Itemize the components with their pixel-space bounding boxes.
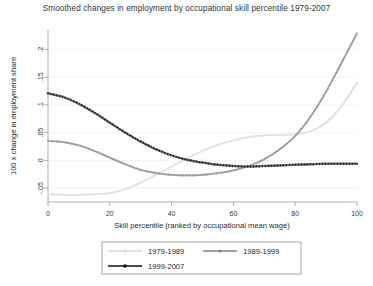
- series-marker: [312, 163, 315, 166]
- series-marker: [172, 155, 175, 158]
- series-marker: [85, 147, 87, 149]
- series-marker: [354, 85, 356, 87]
- x-tick-label: 20: [106, 210, 114, 217]
- series-marker: [130, 186, 132, 188]
- gridlines: [48, 49, 357, 188]
- legend-label: 1999-2007: [148, 262, 184, 271]
- series-marker: [295, 134, 297, 136]
- series-marker: [255, 165, 258, 168]
- series-marker: [351, 162, 354, 165]
- series-marker: [328, 85, 330, 87]
- series-marker: [192, 160, 195, 163]
- series-marker: [272, 153, 274, 155]
- series-marker: [344, 100, 346, 102]
- series-marker: [161, 151, 164, 154]
- series-marker: [190, 159, 193, 162]
- series-marker: [142, 142, 145, 145]
- series-marker: [242, 137, 244, 139]
- series-marker: [191, 174, 193, 176]
- series-marker: [313, 129, 315, 131]
- series-marker: [342, 58, 344, 60]
- series-marker: [170, 166, 172, 168]
- y-tick-label: .1: [37, 102, 44, 108]
- series-marker: [199, 151, 201, 153]
- series-marker: [110, 192, 112, 194]
- series-marker: [77, 194, 79, 196]
- series-marker: [116, 160, 118, 162]
- series-marker: [99, 115, 102, 118]
- series-marker: [197, 174, 199, 176]
- legend-label: 1979-1989: [148, 247, 184, 256]
- series-marker: [194, 153, 196, 155]
- series-marker: [281, 134, 283, 136]
- series-marker: [91, 110, 94, 113]
- series-marker: [182, 174, 184, 176]
- series-marker: [173, 164, 175, 166]
- series-marker: [53, 140, 55, 142]
- series-marker: [71, 143, 73, 145]
- series-marker: [253, 163, 255, 165]
- series-marker: [239, 138, 241, 140]
- series-marker: [114, 125, 117, 128]
- y-axis-ticks: -.050.05.1.15.2: [37, 46, 48, 194]
- series-marker: [191, 154, 193, 156]
- series-marker: [345, 53, 347, 55]
- series-marker: [251, 135, 253, 137]
- series-marker: [204, 162, 207, 165]
- series-marker: [47, 92, 50, 95]
- series-marker: [178, 157, 181, 160]
- series-marker: [50, 193, 52, 195]
- series-marker: [89, 193, 91, 195]
- series-marker: [347, 50, 349, 52]
- series-marker: [187, 159, 190, 162]
- series-marker: [327, 87, 329, 89]
- series-marker: [288, 140, 290, 142]
- series-marker: [349, 45, 351, 47]
- x-tick-label: 40: [168, 210, 176, 217]
- series-marker: [263, 134, 265, 136]
- x-tick-label: 100: [351, 210, 363, 217]
- series-marker: [279, 164, 282, 167]
- series-marker: [56, 94, 59, 97]
- series-marker: [203, 174, 205, 176]
- series-marker: [345, 162, 348, 165]
- series-marker: [94, 150, 96, 152]
- series-marker: [74, 143, 76, 145]
- series-marker: [47, 140, 49, 142]
- series-marker: [355, 34, 357, 36]
- series-marker: [233, 139, 235, 141]
- series-marker: [216, 164, 219, 167]
- series-marker: [53, 93, 56, 96]
- series-marker: [150, 146, 153, 149]
- series-marker: [248, 136, 250, 138]
- series-marker: [164, 173, 166, 175]
- series-marker: [155, 172, 157, 174]
- series-marker: [56, 193, 58, 195]
- chart-legend: 1979-1989 1989-1999 1999-2007: [102, 242, 301, 274]
- series-marker: [116, 191, 118, 193]
- series-marker: [261, 159, 263, 161]
- series-marker: [258, 161, 260, 163]
- series-marker: [336, 162, 339, 165]
- series-marker: [336, 110, 338, 112]
- series-marker: [293, 136, 295, 138]
- series-marker: [352, 88, 354, 90]
- series-marker: [321, 163, 324, 166]
- series-marker: [116, 126, 119, 129]
- series-marker: [284, 134, 286, 136]
- series-marker: [206, 173, 208, 175]
- series-marker: [106, 120, 109, 123]
- series-marker: [297, 163, 300, 166]
- series-marker: [209, 173, 211, 175]
- series-marker: [181, 160, 183, 162]
- series-marker: [246, 165, 249, 168]
- series-marker: [198, 161, 201, 164]
- series-marker: [302, 132, 304, 134]
- series-marker: [315, 163, 318, 166]
- series-marker: [322, 95, 324, 97]
- series-marker: [61, 96, 64, 99]
- series-marker: [352, 40, 354, 42]
- series-marker: [147, 144, 150, 147]
- series-marker: [70, 99, 73, 102]
- series-marker: [277, 150, 279, 152]
